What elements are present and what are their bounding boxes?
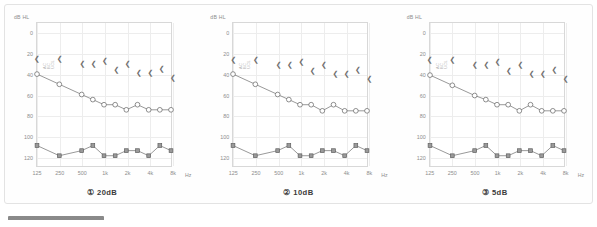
y-tick-label: 100 <box>24 134 33 140</box>
gridline-vertical <box>369 23 370 166</box>
data-point-ac <box>157 107 162 112</box>
y-tick-label: 100 <box>417 134 426 140</box>
y-tick-label: 60 <box>420 93 426 99</box>
x-tick-label: 8k <box>366 170 372 176</box>
data-point-ac <box>102 102 107 107</box>
panel-caption: ③ 5dB <box>397 188 593 197</box>
plot-area: 0204060801001201252505001k2k4k8kHzACBCUC… <box>36 22 172 167</box>
data-point-ac <box>231 72 236 77</box>
data-point-ucl: ❮ <box>253 57 259 64</box>
y-tick-label: 80 <box>420 113 426 119</box>
data-point-ucl: ❮ <box>57 56 63 63</box>
x-tick-label: 250 <box>251 170 260 176</box>
data-point-ucl: ❮ <box>125 61 131 68</box>
data-point-bc <box>343 154 347 158</box>
y-tick-label: 60 <box>27 93 33 99</box>
x-tick-label: 2k <box>517 170 523 176</box>
y-tick-label: 100 <box>220 134 229 140</box>
y-tick-label: 0 <box>423 30 426 36</box>
data-point-ucl: ❮ <box>483 62 489 69</box>
data-point-ac <box>343 108 348 113</box>
panel-caption: ① 20dB <box>4 188 200 197</box>
data-point-bc <box>365 149 369 153</box>
x-tick-label: 1k <box>298 170 304 176</box>
data-point-bc <box>254 154 258 158</box>
panel-caption: ② 10dB <box>200 188 396 197</box>
x-tick-label: 8k <box>170 170 176 176</box>
y-tick-label: 40 <box>223 72 229 78</box>
data-point-bc <box>287 144 291 148</box>
data-point-ucl: ❮ <box>113 66 119 73</box>
data-point-ac <box>539 108 544 113</box>
data-point-bc <box>298 154 302 158</box>
data-point-ac <box>276 92 281 97</box>
x-tick-label: 4k <box>540 170 546 176</box>
audiogram-figure: dB HL0204060801001201252505001k2k4k8kHzA… <box>0 0 597 227</box>
x-tick-label: 125 <box>229 170 238 176</box>
data-point-bc <box>80 149 84 153</box>
x-tick-label: 8k <box>563 170 569 176</box>
y-tick-label: 40 <box>420 72 426 78</box>
data-point-ac <box>528 102 533 107</box>
data-point-ac <box>427 73 432 78</box>
data-point-ucl: ❮ <box>344 70 350 77</box>
data-point-ac <box>298 102 303 107</box>
y-tick-label: 120 <box>220 155 229 161</box>
data-point-ucl: ❮ <box>321 62 327 69</box>
y-tick-label: 120 <box>417 155 426 161</box>
data-point-ucl: ❮ <box>136 69 142 76</box>
data-point-ucl: ❮ <box>276 62 282 69</box>
data-point-ac <box>287 97 292 102</box>
y-tick-label: 20 <box>27 51 33 57</box>
x-tick-label: 4k <box>147 170 153 176</box>
y-tick-label: 0 <box>30 30 33 36</box>
data-point-bc <box>158 144 162 148</box>
data-point-bc <box>450 154 454 158</box>
data-point-ac <box>320 108 325 113</box>
y-tick-label: 60 <box>223 93 229 99</box>
x-tick-label: 125 <box>33 170 42 176</box>
x-axis-unit-label: Hz <box>185 172 191 178</box>
data-point-bc <box>551 144 555 148</box>
data-point-ac <box>169 107 174 112</box>
data-point-bc <box>332 149 336 153</box>
series-layer <box>37 23 171 166</box>
data-point-ac <box>309 102 314 107</box>
y-axis-unit-label: dB HL <box>14 14 29 20</box>
data-point-bc <box>528 149 532 153</box>
data-point-ac <box>79 92 84 97</box>
data-point-ucl: ❮ <box>551 66 557 73</box>
data-point-bc <box>428 144 432 148</box>
x-axis-unit-label: Hz <box>578 172 584 178</box>
data-point-ucl: ❮ <box>495 59 501 66</box>
footer-text-fragment <box>8 216 104 223</box>
data-point-bc <box>231 144 235 148</box>
y-tick-label: 80 <box>27 113 33 119</box>
data-point-bc <box>517 149 521 153</box>
y-tick-label: 40 <box>27 72 33 78</box>
data-point-ucl: ❮ <box>449 57 455 64</box>
data-point-ac <box>253 82 258 87</box>
data-point-bc <box>35 144 39 148</box>
data-point-ucl: ❮ <box>91 61 97 68</box>
data-point-ac <box>135 102 140 107</box>
series-layer <box>233 23 367 166</box>
data-point-ucl: ❮ <box>427 57 433 64</box>
data-point-bc <box>113 154 117 158</box>
data-point-ucl: ❮ <box>298 59 304 66</box>
gridline-vertical <box>173 23 174 166</box>
data-point-ac <box>450 83 455 88</box>
x-tick-label: 2k <box>321 170 327 176</box>
audiogram-panel-1: dB HL0204060801001201252505001k2k4k8kHzA… <box>4 4 200 204</box>
data-point-ucl: ❮ <box>529 70 535 77</box>
data-point-ucl: ❮ <box>563 75 569 82</box>
data-point-ucl: ❮ <box>79 61 85 68</box>
data-point-bc <box>124 149 128 153</box>
data-point-ucl: ❮ <box>230 57 236 64</box>
data-point-bc <box>169 149 173 153</box>
data-point-ucl: ❮ <box>287 62 293 69</box>
data-point-ac <box>90 97 95 102</box>
data-point-bc <box>136 149 140 153</box>
data-point-ac <box>472 93 477 98</box>
data-point-ucl: ❮ <box>34 56 40 63</box>
